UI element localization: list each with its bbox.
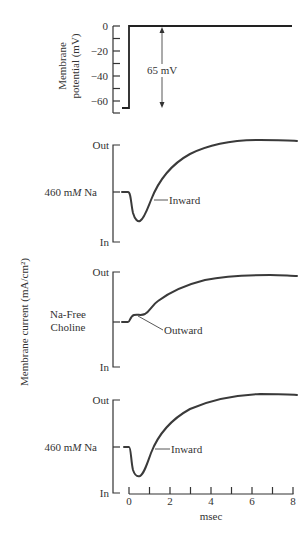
panel3-condition-line1: Na-Free [50,308,86,320]
voltage-y-ticks [113,26,120,113]
panel2-y-axis [113,145,120,242]
voltage-tick-0: 0 [103,20,109,32]
voltage-panel: Membrane potential (mV) 0 −20 −40 −60 65… [56,20,292,113]
x-tick-8: 8 [290,495,296,507]
panel2-out-label: Out [93,139,110,151]
panel2-in-label: In [100,236,110,248]
current-panel-na-1: Out In 460 mM Na Inward [44,139,297,248]
voltage-tick-20: −20 [91,45,109,57]
current-panel-na-2: Out In 460 mM Na Inward 0 2 4 6 8 msec [44,394,297,522]
panel4-inward-label: Inward [171,443,203,455]
voltage-tick-60: −60 [91,95,109,107]
panel3-leader [138,316,163,330]
time-x-ticks [129,487,293,494]
panel4-in-label: In [100,487,110,499]
x-tick-2: 2 [167,495,173,507]
voltage-ylabel-line2: potential (mV) [69,33,82,98]
voltage-tick-40: −40 [91,70,109,82]
x-tick-4: 4 [208,495,214,507]
panel2-condition-label: 460 mM Na [44,186,97,198]
panel4-condition-label: 460 mM Na [44,441,97,453]
panel3-outward-label: Outward [164,324,203,336]
panel3-condition-line2: Choline [51,321,86,333]
step-size-label: 65 mV [147,64,177,76]
figure: Membrane potential (mV) 0 −20 −40 −60 65… [0,0,308,533]
panel3-in-label: In [100,361,110,373]
panel2-current-trace [122,140,297,221]
current-panel-choline: Out In Na-Free Choline Outward [50,266,297,373]
x-axis-label: msec [200,510,223,522]
panel2-inward-label: Inward [169,194,201,206]
x-tick-6: 6 [249,495,255,507]
panel4-out-label: Out [93,394,110,406]
x-tick-0: 0 [126,495,132,507]
panel3-y-axis [113,272,120,367]
voltage-ylabel-line1: Membrane [56,42,68,90]
current-ylabel: Membrane current (mA/cm²) [18,258,31,386]
panel4-current-trace [124,394,297,476]
panel3-current-trace [122,275,297,322]
panel3-out-label: Out [93,266,110,278]
